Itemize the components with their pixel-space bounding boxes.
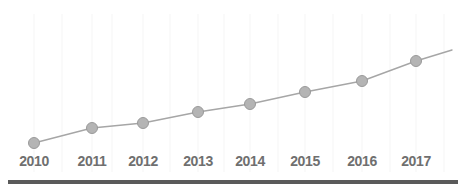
gridlines: [34, 14, 444, 172]
x-axis-label-2014: 2014: [235, 152, 265, 170]
line-chart: 20102011201220132014201520162017: [0, 0, 466, 189]
data-point-marker: [300, 87, 311, 98]
data-point-marker: [138, 118, 149, 129]
x-axis-label-2012: 2012: [128, 152, 158, 170]
baseline-rule: [8, 180, 458, 184]
x-axis-label-2017: 2017: [401, 152, 431, 170]
x-axis-label-2013: 2013: [183, 152, 213, 170]
x-axis-tick-labels: 20102011201220132014201520162017: [0, 152, 466, 174]
data-point-marker: [87, 123, 98, 134]
x-axis-label-2011: 2011: [78, 152, 107, 170]
x-axis-label-2016: 2016: [347, 152, 377, 170]
data-point-marker: [411, 56, 422, 67]
data-point-marker: [193, 107, 204, 118]
data-point-marker: [245, 99, 256, 110]
data-point-marker: [29, 138, 40, 149]
data-point-marker: [357, 76, 368, 87]
x-axis-label-2010: 2010: [19, 152, 49, 170]
x-axis-label-2015: 2015: [290, 152, 320, 170]
